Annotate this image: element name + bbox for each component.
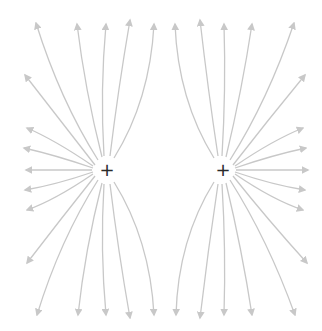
- field-line-group: [24, 20, 308, 318]
- field-line-left-16: [114, 182, 154, 315]
- field-line-right-2: [222, 24, 225, 156]
- field-diagram: + +: [0, 0, 322, 331]
- field-line-left-0: [36, 23, 98, 160]
- field-line-right-13: [226, 183, 252, 315]
- field-line-left-15: [110, 184, 130, 318]
- field-line-right-15: [200, 184, 218, 318]
- field-lines: [0, 0, 322, 331]
- field-line-right-3: [226, 24, 252, 157]
- field-line-left-1: [77, 24, 102, 157]
- field-line-left-2: [102, 24, 106, 156]
- field-line-left-7: [24, 148, 93, 168]
- positive-charge-left: +: [99, 161, 114, 179]
- field-line-left-4: [114, 24, 154, 158]
- field-line-left-12: [37, 180, 98, 315]
- field-line-left-14: [102, 184, 106, 315]
- field-line-left-13: [78, 183, 102, 315]
- field-line-right-14: [222, 184, 225, 315]
- positive-charge-right: +: [215, 161, 230, 179]
- field-line-right-7: [235, 148, 306, 168]
- field-line-right-1: [200, 20, 218, 156]
